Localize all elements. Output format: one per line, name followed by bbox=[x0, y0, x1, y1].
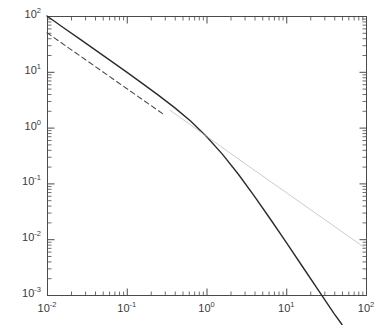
x-tick-label-10-1: 10-1 bbox=[107, 302, 147, 314]
curve-dashed-reference bbox=[47, 33, 165, 115]
curve-thin-asymptote bbox=[170, 110, 366, 248]
x-tick-label-10-2: 10-2 bbox=[27, 302, 67, 314]
y-tick-label-100: 100 bbox=[25, 120, 41, 132]
x-tick-label-102: 102 bbox=[346, 302, 385, 314]
y-tick-label-10-2: 10-2 bbox=[22, 231, 41, 243]
x-tick-label-101: 101 bbox=[266, 302, 306, 314]
axis-frame bbox=[48, 17, 367, 296]
data-curves bbox=[47, 16, 366, 325]
figure-log-log-plot: 10210110010-110-210-3 10-210-1100101102 bbox=[0, 0, 385, 325]
plot-canvas bbox=[0, 0, 385, 325]
plot-border bbox=[48, 17, 367, 296]
y-tick-label-10-1: 10-1 bbox=[22, 175, 41, 187]
axis-ticks bbox=[48, 17, 367, 296]
x-tick-label-100: 100 bbox=[187, 302, 227, 314]
y-tick-label-101: 101 bbox=[25, 64, 41, 76]
y-tick-label-102: 102 bbox=[25, 8, 41, 20]
y-tick-label-10-3: 10-3 bbox=[22, 287, 41, 299]
curve-main-curve bbox=[47, 16, 342, 325]
